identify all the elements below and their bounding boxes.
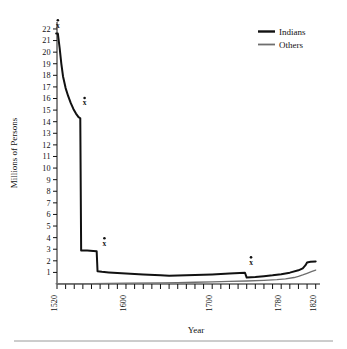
y-tick-label: 12 (42, 141, 50, 150)
y-tick-label: 17 (42, 83, 50, 92)
y-tick-label: 2 (46, 257, 50, 266)
annotation-dot (83, 97, 86, 100)
x-axis-title: Year (188, 325, 205, 335)
legend-label-others: Others (279, 40, 303, 50)
annotation-x-marker: x (83, 98, 87, 107)
y-tick-label: 11 (43, 152, 51, 161)
annotation-x-marker: x (103, 239, 107, 248)
annotation-dot (250, 256, 253, 259)
y-tick-label: 10 (42, 164, 50, 173)
y-tick-label: 9 (46, 176, 50, 185)
y-tick-label: 3 (46, 245, 50, 254)
y-tick-label: 7 (46, 199, 50, 208)
y-tick-label: 22 (42, 25, 50, 34)
population-decline-line-chart: 22212019181716151413121110987654321 1520… (0, 0, 347, 349)
x-tick-label: 1700 (205, 295, 214, 311)
y-tick-label: 14 (42, 118, 50, 127)
y-tick-label: 21 (42, 36, 50, 45)
y-tick-label: 6 (46, 210, 50, 219)
y-tick-label: 13 (42, 129, 50, 138)
annotation-x-marker: x (249, 258, 253, 267)
x-tick-label: 1780 (274, 295, 283, 311)
y-tick-label: 8 (46, 187, 50, 196)
y-tick-label: 1 (46, 268, 50, 277)
y-axis-title: Millions of Persons (9, 117, 19, 188)
x-tick-label: 1600 (119, 295, 128, 311)
x-tick-label: 1520 (50, 295, 59, 311)
y-tick-label: 16 (42, 94, 50, 103)
y-tick-label: 15 (42, 106, 50, 115)
legend-label-indians: Indians (279, 27, 306, 37)
annotation-x-marker: x (56, 21, 60, 30)
y-tick-label: 4 (46, 234, 50, 243)
chart-figure: 22212019181716151413121110987654321 1520… (0, 0, 347, 349)
y-tick-label: 18 (42, 71, 50, 80)
annotation-dot (103, 237, 106, 240)
y-tick-label: 19 (42, 60, 50, 69)
y-tick-label: 5 (46, 222, 50, 231)
y-tick-label: 20 (42, 48, 50, 57)
annotation-dot (57, 19, 60, 22)
x-tick-label: 1820 (309, 295, 318, 311)
